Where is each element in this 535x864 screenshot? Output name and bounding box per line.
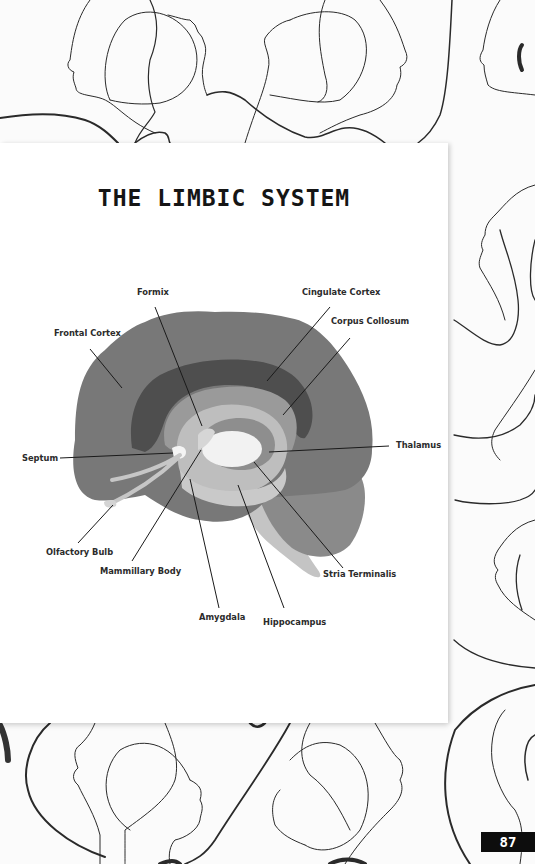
diagram-card: THE LIMBIC SYSTEM (0, 143, 448, 723)
label-hippocampus: Hippocampus (263, 617, 326, 627)
limbic-brain-diagram (0, 143, 448, 723)
olfactory-bulb-region (104, 500, 116, 508)
label-olfactory-bulb: Olfactory Bulb (46, 547, 113, 557)
leader-olfactory-bulb (78, 505, 113, 543)
label-mammillary-body: Mammillary Body (100, 566, 181, 576)
label-amygdala: Amygdala (199, 612, 245, 622)
label-frontal-cortex: Frontal Cortex (54, 328, 121, 338)
label-thalamus: Thalamus (396, 440, 441, 450)
label-formix: Formix (137, 287, 169, 297)
label-stria-terminalis: Stria Terminalis (323, 569, 396, 579)
page-number: 87 (481, 832, 535, 852)
label-cingulate-cortex: Cingulate Cortex (302, 287, 380, 297)
label-septum: Septum (22, 453, 58, 463)
label-corpus-collosum: Corpus Collosum (331, 316, 409, 326)
